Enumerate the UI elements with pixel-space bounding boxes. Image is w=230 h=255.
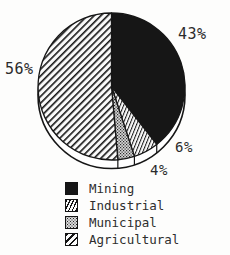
industrial-swatch-icon [65, 199, 78, 212]
pct-label-mining: 43% [178, 25, 207, 43]
pct-label-industrial: 6% [175, 139, 193, 155]
legend: Mining Industrial Municipal Agricultural [65, 182, 179, 246]
municipal-swatch-icon [65, 216, 78, 229]
legend-label-mining: Mining [89, 182, 134, 195]
pie-chart-figure: 43% 56% 6% 4% Mining Industrial Municipa… [0, 0, 230, 255]
mining-swatch-icon [65, 182, 78, 195]
agricultural-swatch-icon [65, 233, 78, 246]
legend-label-agricultural: Agricultural [89, 233, 179, 246]
legend-label-municipal: Municipal [89, 216, 157, 229]
legend-item-municipal: Municipal [65, 216, 179, 229]
pct-label-municipal: 4% [150, 162, 168, 178]
legend-item-industrial: Industrial [65, 199, 179, 212]
legend-item-agricultural: Agricultural [65, 233, 179, 246]
legend-item-mining: Mining [65, 182, 179, 195]
legend-label-industrial: Industrial [89, 199, 164, 212]
pie-slice-agricultural [38, 13, 118, 160]
pct-label-agricultural: 56% [5, 60, 34, 78]
